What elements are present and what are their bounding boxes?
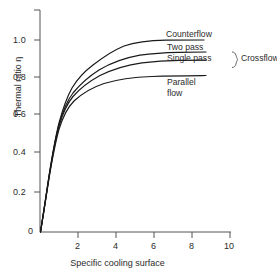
annotation-counterflow: Counterflow bbox=[166, 29, 212, 40]
y-axis-title: Thermal ratio η bbox=[13, 27, 23, 147]
x-tick-label-4: 4 bbox=[113, 241, 118, 251]
y-tick-label-0.2: 0.2 bbox=[13, 187, 26, 197]
x-tick-label-6: 6 bbox=[151, 241, 156, 251]
chart-figure: 1.0 0.8 0.6 0.4 0.2 0 2 4 6 8 10 Thermal… bbox=[0, 0, 277, 279]
x-tick-label-2: 2 bbox=[75, 241, 80, 251]
annotation-parallel-flow-line1: Parallel bbox=[167, 77, 196, 88]
annotation-crossflow: Crossflow bbox=[241, 53, 277, 64]
series-parallel-flow-curve bbox=[41, 76, 207, 233]
y-tick-label-0: 0 bbox=[28, 226, 33, 236]
annotation-parallel-flow-line2: flow bbox=[167, 88, 182, 99]
x-axis-title: Specific cooling surface bbox=[0, 258, 235, 268]
x-tick-label-8: 8 bbox=[189, 241, 194, 251]
x-tick-label-10: 10 bbox=[224, 241, 234, 251]
y-tick-label-0.4: 0.4 bbox=[13, 147, 26, 157]
crossflow-brace bbox=[232, 52, 238, 68]
plot-area bbox=[0, 0, 277, 279]
annotation-single-pass: Single pass bbox=[167, 53, 211, 64]
series-counterflow-curve bbox=[41, 40, 205, 232]
annotation-two-pass: Two pass bbox=[167, 42, 203, 53]
